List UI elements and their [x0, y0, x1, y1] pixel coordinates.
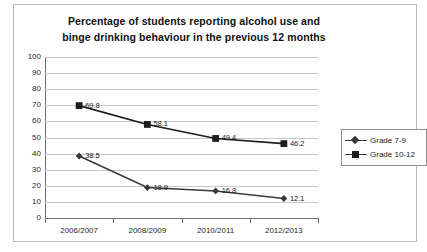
y-axis-tick-label: 70: [15, 101, 41, 109]
y-axis-tick-label: 0: [15, 214, 41, 222]
gridline: [45, 170, 318, 171]
data-point-label: 16.8: [222, 187, 237, 195]
legend-item-grade-7-9[interactable]: Grade 7-9: [345, 133, 424, 147]
square-marker-icon: [345, 149, 367, 159]
y-axis-tick-label: 20: [15, 182, 41, 190]
y-axis-tick-label: 30: [15, 166, 41, 174]
y-axis-tick-label: 80: [15, 85, 41, 93]
y-axis-tick-label: 40: [15, 150, 41, 158]
y-axis-tick-label: 60: [15, 117, 41, 125]
x-axis-tick: [45, 218, 46, 223]
gridline: [45, 73, 318, 74]
x-axis-tick: [318, 218, 319, 223]
y-axis-tick-label: 10: [15, 198, 41, 206]
y-axis-tick-label: 100: [15, 53, 41, 61]
x-axis-tick: [113, 218, 114, 223]
data-point-label: 49.4: [222, 134, 237, 142]
y-axis-tick-label: 90: [15, 69, 41, 77]
legend-item-grade-10-12[interactable]: Grade 10-12: [345, 147, 424, 161]
data-point-label: 46.2: [290, 140, 305, 148]
gridline: [45, 202, 318, 203]
gridline: [45, 57, 318, 58]
data-point-label: 69.8: [85, 102, 100, 110]
gridline: [45, 89, 318, 90]
x-axis-tick: [250, 218, 251, 223]
gridline: [45, 186, 318, 187]
y-axis: 1009080706050403020100: [12, 57, 41, 218]
chart-legend: Grade 7-9 Grade 10-12: [341, 129, 427, 166]
legend-label-grade-10-12: Grade 10-12: [367, 150, 415, 159]
data-point-label: 38.5: [85, 152, 100, 160]
gridline: [45, 121, 318, 122]
plot-area: [45, 57, 318, 218]
data-point-label: 58.1: [153, 120, 168, 128]
gridline: [45, 138, 318, 139]
legend-label-grade-7-9: Grade 7-9: [367, 136, 406, 145]
chart-title-line-1: Percentage of students reporting alcohol…: [44, 13, 344, 29]
data-point-label: 18.9: [153, 184, 168, 192]
data-point-label: 12.1: [290, 195, 305, 203]
chart-title-line-2: binge drinking behaviour in the previous…: [44, 29, 344, 45]
x-axis-tick: [182, 218, 183, 223]
y-axis-tick-label: 50: [15, 134, 41, 142]
x-axis-tick-label: 2012/2013: [244, 226, 324, 235]
chart-title: Percentage of students reporting alcohol…: [44, 13, 344, 45]
diamond-marker-icon: [345, 135, 367, 145]
